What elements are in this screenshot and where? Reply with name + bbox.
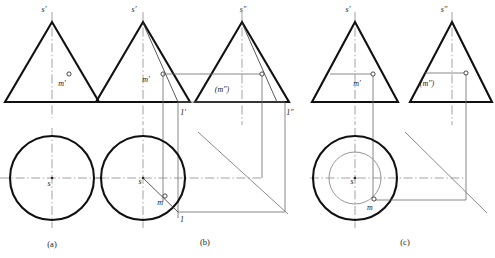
panel-b: s′ m′ 1′ s″ (m″) 1″ — [96, 5, 294, 247]
panel-c-top-view: s m — [310, 128, 466, 228]
caption-c: (c) — [400, 237, 410, 247]
miter-line-b — [198, 132, 288, 214]
label-m-prime-c: m′ — [353, 79, 361, 88]
miter-line-c — [405, 132, 487, 213]
point-m-prime-c — [371, 72, 375, 76]
cone-side-outline-c — [410, 22, 492, 102]
point-s-a — [51, 177, 54, 180]
generatrix-side-b — [242, 23, 277, 102]
panel-c-front-view: s′ m′ — [312, 5, 398, 200]
panel-a-front-view: s′ m′ — [5, 5, 99, 118]
point-s-b — [142, 177, 145, 180]
panel-b-top-view: s m 1 — [96, 128, 285, 228]
label-1-prime-b: 1′ — [180, 108, 186, 117]
caption-b: (b) — [200, 237, 210, 247]
label-s-prime-a: s′ — [42, 5, 47, 14]
figure-canvas: s′ m′ s (a) s′ m′ 1′ — [0, 0, 495, 258]
panel-a-top-view: s — [0, 128, 108, 228]
point-m-prime-a — [67, 72, 71, 76]
panel-b-front-view: s′ m′ 1′ — [96, 5, 190, 218]
point-s-c — [354, 177, 357, 180]
panel-a: s′ m′ s (a) — [0, 5, 108, 249]
point-m-double-prime-c — [464, 71, 468, 75]
label-m-prime-a: m′ — [58, 79, 66, 88]
generatrix-front-b — [143, 23, 178, 102]
label-m-prime-b: m′ — [142, 75, 150, 84]
label-s-a: s — [47, 179, 50, 188]
label-m-double-prime-b: (m″) — [215, 85, 230, 94]
label-s-prime-c: s′ — [346, 5, 351, 14]
label-m-b: m — [157, 198, 164, 207]
label-m-double-prime-c: (m″) — [420, 79, 435, 88]
label-1-double-prime-b: 1″ — [286, 108, 294, 117]
point-m-top-c — [372, 197, 376, 201]
point-m-double-prime-b — [260, 72, 264, 76]
label-s-c: s — [350, 177, 353, 186]
label-m-c: m — [367, 203, 373, 212]
label-s-double-prime-c: s″ — [441, 5, 448, 14]
panel-c: s′ m′ s″ (m″) s m (c) — [310, 5, 492, 247]
label-s-prime-b: s′ — [132, 5, 137, 14]
label-s-double-prime-b: s″ — [240, 5, 247, 14]
caption-a: (a) — [47, 239, 57, 249]
panel-c-side-view: s″ (m″) — [410, 5, 492, 200]
label-s-b: s — [138, 177, 141, 186]
label-1-b: 1 — [180, 215, 184, 224]
